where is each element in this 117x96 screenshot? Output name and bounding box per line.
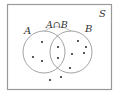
set-a-circle (23, 31, 65, 73)
universe-frame (8, 5, 112, 90)
universe-label: S (99, 8, 106, 19)
dot-outside (49, 79, 51, 81)
dot-outside (60, 76, 62, 78)
venn-diagram: S A A∩B B (0, 0, 117, 96)
element-dots (32, 40, 87, 81)
set-a-label: A (23, 25, 31, 36)
dot-a-only (32, 56, 34, 58)
dot-b-only (71, 53, 73, 55)
dot-b-only (83, 52, 85, 54)
dot-a-only (41, 60, 43, 62)
dot-a-and-b (57, 57, 59, 59)
dot-b-only (77, 40, 79, 42)
dot-a-only (41, 41, 43, 43)
dot-b-only (85, 46, 87, 48)
dot-a-and-b (57, 46, 59, 48)
intersection-label: A∩B (45, 19, 68, 30)
set-b-label: B (84, 23, 92, 34)
set-b-circle (50, 31, 92, 73)
dot-b-only (69, 67, 71, 69)
